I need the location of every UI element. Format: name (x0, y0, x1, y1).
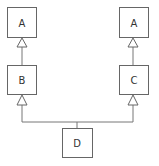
node-a-left: A (8, 8, 37, 38)
node-label: C (131, 75, 138, 86)
node-d: D (63, 129, 93, 158)
node-label: A (131, 18, 138, 29)
arrowhead-icon (128, 95, 138, 105)
edge-d-to-b-c (22, 105, 133, 122)
node-label: A (19, 18, 26, 29)
node-label: D (73, 138, 81, 149)
node-b: B (8, 66, 37, 95)
arrowhead-icon (17, 38, 27, 47)
arrowhead-icon (17, 95, 27, 105)
arrowhead-icon (128, 38, 138, 47)
inheritance-diagram: A B A C D (0, 0, 159, 166)
node-label: B (19, 75, 26, 86)
node-a-right: A (120, 8, 149, 38)
node-c: C (120, 66, 149, 95)
